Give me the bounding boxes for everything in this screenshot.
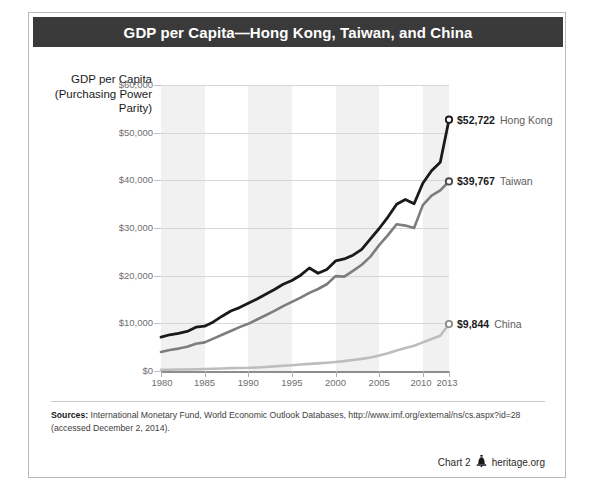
- series-line-hong-kong: [161, 120, 449, 337]
- x-tick-label: 1995: [281, 377, 302, 388]
- series-name-taiwan: Taiwan: [500, 175, 533, 187]
- x-tick-label: 1985: [194, 377, 215, 388]
- sources-text: International Monetary Fund, World Econo…: [51, 410, 520, 433]
- sources-note: Sources: International Monetary Fund, Wo…: [51, 409, 547, 434]
- y-tick-label: $50,000: [93, 127, 153, 138]
- end-label-taiwan: $39,767Taiwan: [457, 175, 533, 187]
- x-tick-label: 2005: [369, 377, 390, 388]
- chart-number: Chart 2: [438, 457, 471, 468]
- sources-label: Sources:: [51, 410, 88, 420]
- end-value-taiwan: $39,767: [457, 175, 495, 187]
- y-tick-label: $40,000: [93, 174, 153, 185]
- series-name-hong-kong: Hong Kong: [500, 114, 553, 126]
- end-label-china: $9,844China: [457, 318, 522, 330]
- end-label-hong-kong: $52,722Hong Kong: [457, 114, 553, 126]
- y-tick-label: $60,000: [93, 79, 153, 90]
- series-lines: [161, 85, 449, 375]
- x-tick-label: 1980: [151, 377, 172, 388]
- end-value-hong-kong: $52,722: [457, 114, 495, 126]
- footer-divider: [51, 401, 545, 402]
- endpoint-marker-taiwan: [446, 178, 452, 184]
- site-name: heritage.org: [492, 457, 545, 468]
- page-title: GDP per Capita—Hong Kong, Taiwan, and Ch…: [124, 24, 473, 41]
- chart-footer: Chart 2 heritage.org: [438, 455, 545, 469]
- end-value-china: $9,844: [457, 318, 489, 330]
- x-tick-label: 2000: [325, 377, 346, 388]
- liberty-bell-icon: [476, 455, 487, 469]
- endpoint-marker-hong-kong: [446, 116, 452, 122]
- x-tick-label: 2010: [410, 377, 431, 388]
- y-tick-label: $30,000: [93, 222, 153, 233]
- x-tick-label: 1990: [238, 377, 259, 388]
- series-name-china: China: [494, 318, 521, 330]
- endpoint-marker-china: [446, 321, 452, 327]
- plot-region: $60,000 $50,000 $40,000 $30,000 $20,000 …: [161, 85, 449, 375]
- chart-card: GDP per Capita—Hong Kong, Taiwan, and Ch…: [28, 12, 566, 478]
- y-tick-label: $20,000: [93, 270, 153, 281]
- series-line-china: [161, 324, 449, 370]
- chart-area: GDP per Capita (Purchasing Power Parity)…: [29, 47, 567, 399]
- y-tick-label: $0: [93, 365, 153, 376]
- chart-title-bar: GDP per Capita—Hong Kong, Taiwan, and Ch…: [33, 17, 563, 47]
- x-tick-label: 2013: [436, 377, 457, 388]
- y-tick-label: $10,000: [93, 317, 153, 328]
